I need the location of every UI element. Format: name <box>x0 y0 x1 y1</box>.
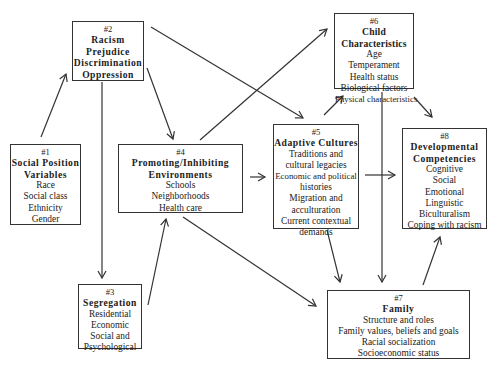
node-item: histories <box>274 182 358 193</box>
node-title-line: Prejudice <box>73 46 143 58</box>
node-item: Race <box>11 180 80 191</box>
node-item: Psychological <box>79 342 141 353</box>
node-item: Health status <box>335 72 413 83</box>
node-item: Residential <box>79 309 141 320</box>
edge-3-to-4 <box>148 219 166 305</box>
node-number: #7 <box>328 293 469 303</box>
node-item: Temperament <box>335 60 413 71</box>
node-item: Health care <box>119 203 242 214</box>
node-item: Economic and political <box>274 171 358 182</box>
node-item: Socioeconomic status <box>328 348 469 359</box>
node-item: Schools <box>119 180 242 191</box>
node-item: Migration and <box>274 193 358 204</box>
node-number: #1 <box>11 147 80 157</box>
node-title-line: Child Characteristics <box>335 26 413 49</box>
node-item: Family values, beliefs and goals <box>328 326 469 337</box>
node-title-line: Promoting/Inhibiting <box>119 157 242 169</box>
node-item: Traditions and <box>274 149 358 160</box>
edge-2-to-5 <box>151 27 303 118</box>
node-family: #7 Family Structure and roles Family val… <box>327 290 470 359</box>
node-title-line: Racism <box>73 34 143 46</box>
node-child-characteristics: #6 Child Characteristics Age Temperament… <box>334 13 414 89</box>
node-item: demands <box>274 227 358 238</box>
node-item: Cognitive <box>403 164 486 175</box>
node-item: Neighborhoods <box>119 191 242 202</box>
node-item: Economic <box>79 320 141 331</box>
edge-2-to-4 <box>147 68 173 139</box>
node-title-line: Family <box>328 303 469 315</box>
node-item: Social and <box>79 331 141 342</box>
node-number: #3 <box>79 287 141 297</box>
node-promoting-inhibiting-environments: #4 Promoting/Inhibiting Environments Sch… <box>118 144 243 213</box>
node-item: Structure and roles <box>328 315 469 326</box>
node-title-line: Adaptive Cultures <box>274 137 358 149</box>
node-item: Linguistic <box>403 198 486 209</box>
node-item: Physical characteristics <box>335 94 413 105</box>
node-item: Biculturalism <box>403 209 486 220</box>
node-number: #5 <box>274 127 358 137</box>
node-item: Racial socialization <box>328 337 469 348</box>
node-title-line: Social Position <box>11 157 80 169</box>
node-title-line: Variables <box>11 169 80 181</box>
node-title-line: Developmental <box>403 141 486 153</box>
node-item: Biological factors <box>335 83 413 94</box>
node-item: acculturation <box>274 205 358 216</box>
node-item: Gender <box>11 214 80 225</box>
node-developmental-competencies: #8 Developmental Competencies Cognitive … <box>402 128 487 229</box>
node-item: Current contextual <box>274 216 358 227</box>
edge-7-to-8 <box>423 237 440 285</box>
node-item: Age <box>335 49 413 60</box>
node-item: Emotional <box>403 187 486 198</box>
node-racism-prejudice: #2 Racism Prejudice Discrimination Oppre… <box>72 21 144 81</box>
node-number: #8 <box>403 131 486 141</box>
node-title-line: Competencies <box>403 153 486 165</box>
node-title-line: Environments <box>119 169 242 181</box>
node-number: #2 <box>73 24 143 34</box>
node-number: #4 <box>119 147 242 157</box>
node-social-position-variables: #1 Social Position Variables Race Social… <box>10 144 81 225</box>
node-number: #6 <box>335 16 413 26</box>
node-item: Social <box>403 175 486 186</box>
node-adaptive-cultures: #5 Adaptive Cultures Traditions and cult… <box>273 124 359 229</box>
node-item: Coping with racism <box>403 220 486 231</box>
node-item: Ethnicity <box>11 203 80 214</box>
node-item: Social class <box>11 191 80 202</box>
node-title-line: Discrimination <box>73 57 143 69</box>
edge-1-to-2 <box>41 74 66 137</box>
node-segregation: #3 Segregation Residential Economic Soci… <box>78 284 142 349</box>
node-title-line: Segregation <box>79 297 141 309</box>
node-item: cultural legacies <box>274 160 358 171</box>
node-title-line: Oppression <box>73 69 143 81</box>
